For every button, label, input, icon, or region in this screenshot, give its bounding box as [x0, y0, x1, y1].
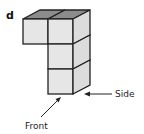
- front-face-left-cube: [23, 19, 48, 44]
- front-face-bottom-cube: [48, 69, 73, 94]
- cube-diagram: d Side Front: [0, 0, 144, 134]
- panel-label: d: [6, 9, 14, 22]
- front-arrow-line: [41, 100, 58, 117]
- front-face-middle-cube: [48, 44, 73, 69]
- front-face-top-cube: [48, 19, 73, 44]
- side-arrow-head: [84, 92, 90, 97]
- side-label: Side: [115, 89, 135, 99]
- front-label: Front: [25, 121, 48, 131]
